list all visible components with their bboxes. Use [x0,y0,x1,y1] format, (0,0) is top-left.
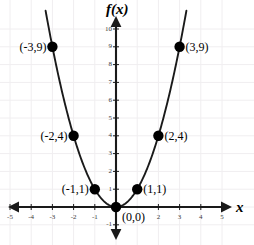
point-annotation-label: (-1,1) [62,183,89,195]
point-annotation-label: (0,0) [122,211,145,223]
point-annotation-label: (-2,4) [41,130,68,142]
x-tick-label: 5 [215,214,229,221]
x-tick-label: 3 [173,214,187,221]
y-tick-label: 7 [98,79,112,86]
y-tick-label: 2 [98,168,112,175]
y-axis-arrow-up [111,16,122,27]
x-tick-label: -1 [88,214,102,221]
y-tick-label: -1 [98,221,112,228]
point-annotation-label: (1,1) [143,183,166,195]
y-tick-label: 3 [98,150,112,157]
point-annotation-label: (3,9) [186,41,209,53]
data-point-dot [153,131,163,141]
x-tick-label: -5 [3,214,17,221]
point-annotation-label: (-3,9) [19,41,46,53]
plot-canvas [0,0,254,245]
x-tick-label: -4 [24,214,38,221]
x-tick-label: -3 [45,214,59,221]
y-tick-label: 9 [98,43,112,50]
data-point-dot [68,131,78,141]
x-axis-label: x [236,200,244,215]
data-point-dot [132,184,142,194]
data-point-dot [111,202,121,212]
y-tick-label: 5 [98,115,112,122]
x-tick-label: 4 [194,214,208,221]
x-tick-label: -2 [67,214,81,221]
data-point-dot [174,42,184,52]
y-tick-label: 4 [98,132,112,139]
y-tick-label: 8 [98,61,112,68]
x-tick-label: 2 [151,214,165,221]
y-axis-arrow-down [111,229,122,240]
data-point-dot [47,42,57,52]
parabola-graph-figure: f(x) x -5-4-3-2-1234510987654321-1 (-3,9… [0,0,254,245]
gridlines [0,0,254,245]
y-tick-label: 10 [98,26,112,33]
y-axis-label: f(x) [106,2,129,17]
y-tick-label: 6 [98,97,112,104]
y-tick-label: 1 [98,186,112,193]
point-annotation-label: (2,4) [164,130,187,142]
x-axis-arrow-right [221,202,232,213]
